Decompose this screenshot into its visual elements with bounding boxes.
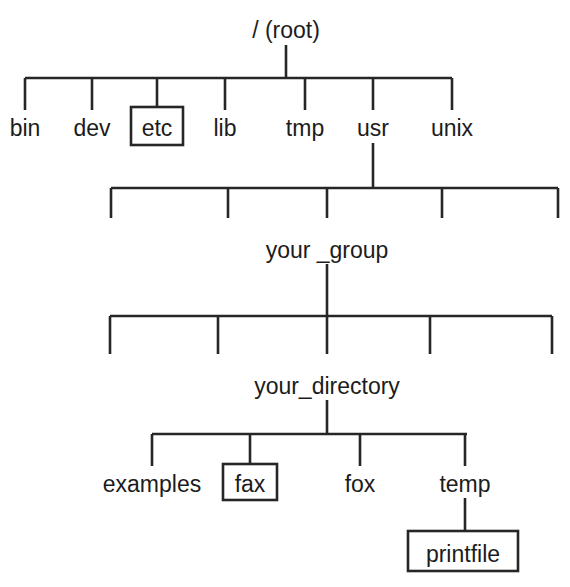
node-label-usr: usr bbox=[357, 115, 389, 141]
node-label-etc: etc bbox=[142, 115, 173, 141]
node-label-printfile: printfile bbox=[426, 541, 500, 567]
node-label-fax: fax bbox=[235, 471, 266, 497]
node-label-dev: dev bbox=[73, 115, 111, 141]
node-label-root: / (root) bbox=[252, 17, 320, 43]
filesystem-tree-diagram: / (root) bin dev etc lib tmp usr unix yo… bbox=[0, 0, 570, 587]
node-label-fox: fox bbox=[345, 471, 376, 497]
node-label-your-group: your _group bbox=[266, 237, 389, 263]
node-label-temp: temp bbox=[439, 471, 490, 497]
node-label-lib: lib bbox=[213, 115, 236, 141]
tree-svg-canvas: / (root) bin dev etc lib tmp usr unix yo… bbox=[0, 0, 570, 587]
node-label-examples: examples bbox=[103, 471, 201, 497]
node-label-unix: unix bbox=[431, 115, 474, 141]
node-label-bin: bin bbox=[10, 115, 41, 141]
node-label-tmp: tmp bbox=[286, 115, 324, 141]
node-label-your-directory: your_directory bbox=[254, 373, 400, 399]
